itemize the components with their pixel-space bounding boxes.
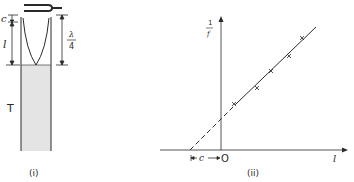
figure-ii: 1 f c O l (ii) bbox=[160, 16, 348, 178]
label-four: 4 bbox=[69, 42, 74, 51]
y-axis-arrow-icon bbox=[219, 16, 224, 22]
c-dimension bbox=[8, 15, 18, 22]
intercept-label: c bbox=[199, 153, 204, 163]
caption-ii: (ii) bbox=[247, 168, 259, 178]
data-point bbox=[255, 86, 259, 90]
origin-label: O bbox=[221, 153, 229, 164]
water-column bbox=[21, 65, 51, 151]
label-l: l bbox=[3, 38, 7, 51]
caption-i: (i) bbox=[29, 168, 39, 178]
y-label-denominator: f bbox=[206, 30, 211, 38]
label-c: c bbox=[1, 13, 7, 24]
label-tube: T bbox=[6, 102, 14, 115]
l-dimension bbox=[6, 22, 20, 65]
x-axis-arrow-icon bbox=[342, 148, 348, 153]
y-label-numerator: 1 bbox=[208, 19, 212, 27]
figure-i: c l λ 4 T (i) bbox=[1, 5, 76, 178]
intercept-dimension bbox=[191, 155, 220, 161]
data-point bbox=[300, 36, 304, 40]
label-lambda: λ bbox=[68, 30, 74, 39]
data-point bbox=[287, 54, 291, 58]
x-label: l bbox=[333, 153, 336, 164]
resonance-diagram: c l λ 4 T (i) 1 bbox=[0, 0, 354, 182]
best-fit-line bbox=[237, 27, 316, 103]
extrapolation-line bbox=[190, 103, 237, 150]
data-points bbox=[232, 36, 304, 106]
wave-envelope bbox=[23, 18, 49, 65]
tuning-fork-icon bbox=[24, 5, 62, 11]
lambda-quarter-dimension bbox=[56, 15, 68, 65]
